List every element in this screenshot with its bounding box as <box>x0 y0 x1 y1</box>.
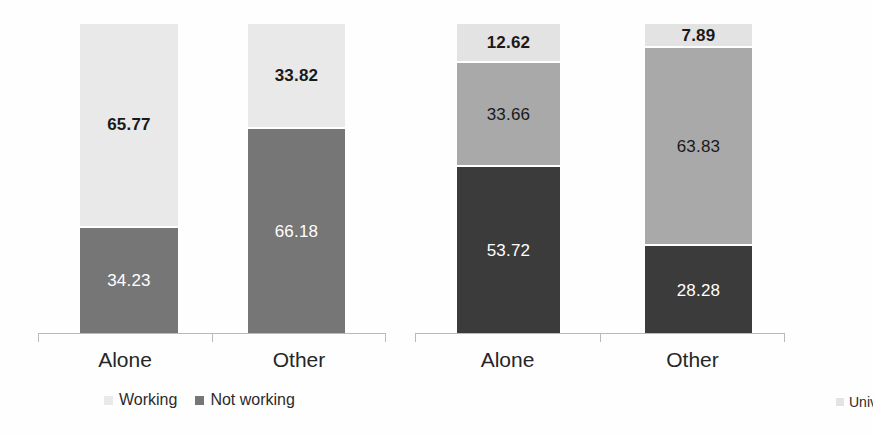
bar-segment-working[interactable]: 65.77 <box>80 24 178 228</box>
legend-swatch-icon <box>104 396 113 405</box>
axis-tick <box>600 333 601 342</box>
bar-right-alone[interactable]: 12.62 33.66 53.72 <box>457 24 560 334</box>
legend-label: University <box>849 395 873 409</box>
axis-tick <box>385 333 386 342</box>
axis-tick <box>38 333 39 342</box>
bar-value-label: 33.82 <box>275 67 319 84</box>
x-axis-category-other: Other <box>212 349 386 370</box>
x-axis-category-alone: Alone <box>38 349 212 370</box>
legend-item-university[interactable]: University <box>836 395 873 409</box>
figure-canvas: 65.77 34.23 33.82 66.18 <box>0 0 873 436</box>
plot-area-right: 12.62 33.66 53.72 7.89 6 <box>412 0 873 334</box>
bar-value-label: 7.89 <box>682 27 716 44</box>
bar-value-label: 12.62 <box>487 34 531 51</box>
plot-area-left: 65.77 34.23 33.82 66.18 <box>0 0 420 334</box>
bar-segment-university[interactable]: 12.62 <box>457 24 560 63</box>
bar-left-other[interactable]: 33.82 66.18 <box>248 24 345 334</box>
education-level-chart: 12.62 33.66 53.72 7.89 6 <box>412 0 873 436</box>
legend-swatch-icon <box>195 396 204 405</box>
legend-label: Not working <box>210 392 294 408</box>
bar-value-label: 53.72 <box>487 242 531 259</box>
bar-segment-not-working[interactable]: 34.23 <box>80 228 178 334</box>
legend-right: University Junior/Senior High School Pri… <box>836 395 873 409</box>
x-axis-left <box>38 333 386 345</box>
x-axis-right <box>415 333 785 345</box>
legend-left: Working Not working <box>104 392 295 408</box>
bar-segment-not-working[interactable]: 66.18 <box>248 129 345 334</box>
bar-segment-junior-senior-high-school[interactable]: 63.83 <box>645 48 752 246</box>
bar-value-label: 66.18 <box>275 223 319 240</box>
bar-left-alone[interactable]: 65.77 34.23 <box>80 24 178 334</box>
bar-value-label: 33.66 <box>487 106 531 123</box>
bar-value-label: 63.83 <box>677 138 721 155</box>
bar-value-label: 65.77 <box>107 116 151 133</box>
bar-segment-working[interactable]: 33.82 <box>248 24 345 129</box>
employment-status-chart: 65.77 34.23 33.82 66.18 <box>0 0 420 436</box>
bar-segment-university[interactable]: 7.89 <box>645 24 752 48</box>
legend-item-working[interactable]: Working <box>104 392 177 408</box>
bar-value-label: 34.23 <box>107 272 151 289</box>
bar-segment-junior-senior-high-school[interactable]: 33.66 <box>457 63 560 167</box>
x-axis-category-alone: Alone <box>415 349 600 370</box>
axis-tick <box>784 333 785 342</box>
legend-swatch-icon <box>836 398 844 406</box>
axis-tick <box>212 333 213 342</box>
x-axis-category-other: Other <box>600 349 785 370</box>
bar-segment-primary-school[interactable]: 28.28 <box>645 246 752 334</box>
bar-value-label: 28.28 <box>677 282 721 299</box>
legend-item-not-working[interactable]: Not working <box>195 392 294 408</box>
bar-segment-primary-school[interactable]: 53.72 <box>457 167 560 334</box>
legend-label: Working <box>119 392 177 408</box>
axis-tick <box>415 333 416 342</box>
bar-right-other[interactable]: 7.89 63.83 28.28 <box>645 24 752 334</box>
